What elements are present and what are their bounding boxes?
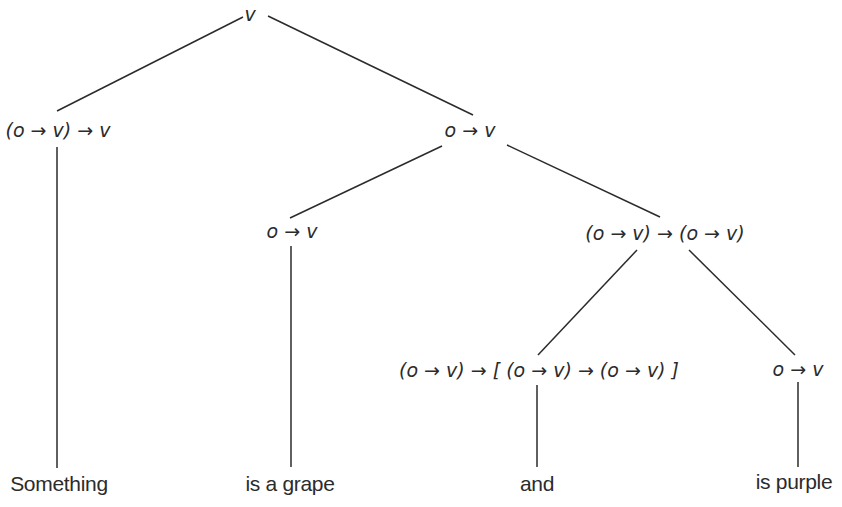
edge-root-quantifier xyxy=(57,17,243,111)
node-root-type: v xyxy=(244,3,255,25)
edge-conjapplied-conj xyxy=(538,250,637,355)
node-predicate-conj-type: o → v xyxy=(445,119,496,141)
leaf-is-a-grape: is a grape xyxy=(245,472,334,496)
type-tree-diagram: v (o → v) → v o → v o → v (o → v) → (o →… xyxy=(0,0,842,507)
tree-edges xyxy=(0,0,842,507)
node-grape-predicate-type: o → v xyxy=(267,220,318,242)
node-conj-applied-type: (o → v) → (o → v) xyxy=(585,222,744,244)
leaf-is-purple: is purple xyxy=(756,470,833,494)
edge-conjapplied-purple xyxy=(689,250,795,355)
leaf-something: Something xyxy=(10,472,108,496)
edge-predicate-conjapplied xyxy=(507,145,660,217)
leaf-and: and xyxy=(520,472,554,496)
node-quantifier-type: (o → v) → v xyxy=(6,119,111,141)
edge-root-predicate xyxy=(268,16,473,115)
node-purple-predicate-type: o → v xyxy=(773,358,824,380)
node-conjunction-type: (o → v) → [ (o → v) → (o → v) ] xyxy=(399,359,679,381)
edge-predicate-grape xyxy=(290,146,442,218)
